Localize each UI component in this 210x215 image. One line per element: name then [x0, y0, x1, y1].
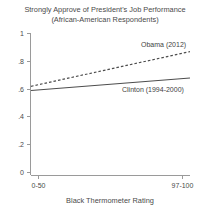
y-axis-ticks	[27, 34, 31, 173]
series-line-obama	[31, 52, 190, 87]
x-tick-label: 97-100	[172, 182, 194, 189]
y-tick-label: .8	[18, 58, 24, 65]
series-label-obama: Obama (2012)	[141, 41, 186, 49]
series-label-clinton: Clinton (1994-2000)	[122, 86, 184, 94]
chart-plot-area: 1 .8 .6 .4 .2 0 0-50 97-100 Black Thermo…	[0, 0, 210, 215]
chart-container: Strongly Approve of President's Job Perf…	[0, 0, 210, 215]
x-tick-label: 0-50	[31, 182, 45, 189]
y-tick-label: .2	[18, 141, 24, 148]
y-tick-label: 1	[20, 30, 24, 37]
x-axis-ticks	[39, 176, 183, 180]
y-tick-label: 0	[20, 169, 24, 176]
y-tick-label: .6	[18, 86, 24, 93]
y-tick-label: .4	[18, 113, 24, 120]
x-axis-title: Black Thermometer Rating	[66, 196, 154, 205]
